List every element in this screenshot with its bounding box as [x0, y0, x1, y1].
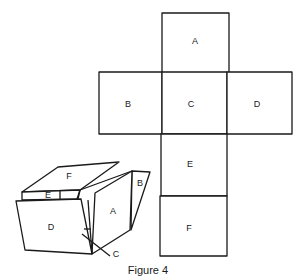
net-label-a: A: [192, 36, 198, 46]
box-label-e: E: [45, 190, 51, 200]
box-label-a: A: [110, 206, 116, 216]
box-label-f: F: [66, 171, 72, 181]
net-face-e: [161, 134, 227, 196]
net-label-e: E: [187, 159, 193, 169]
net-label-f: F: [186, 223, 192, 233]
box-label-b: B: [137, 178, 143, 188]
figure-caption: Figure 4: [128, 264, 168, 276]
net-face-f: [160, 196, 227, 256]
figure-4-diagram: A B C D E F F E D A B C Figure 4: [0, 0, 301, 280]
net-label-b: B: [125, 99, 131, 109]
net-face-c: [162, 72, 227, 134]
box-label-c: C: [113, 249, 120, 259]
box-label-d: D: [48, 222, 55, 232]
net-label-c: C: [188, 99, 195, 109]
net-label-d: D: [254, 99, 261, 109]
folded-box: F E D A B C: [16, 162, 150, 259]
